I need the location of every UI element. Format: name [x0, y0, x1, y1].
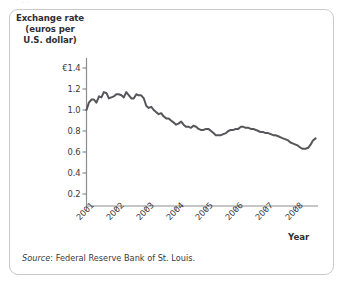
y-tick-label: 0.2 — [43, 189, 81, 199]
axis-tick-marks — [83, 68, 296, 211]
chart-svg — [0, 0, 344, 285]
y-tick-label: 0.8 — [43, 126, 81, 136]
source-label: Source — [22, 253, 50, 263]
source-text: Federal Reserve Bank of St. Louis. — [56, 253, 195, 263]
exchange-rate-line — [87, 92, 316, 149]
y-tick-label: 0.6 — [43, 147, 81, 157]
source-separator: : — [50, 253, 53, 263]
y-tick-label: 1.0 — [43, 105, 81, 115]
y-tick-label: 0.4 — [43, 168, 81, 178]
source-note: Source: Federal Reserve Bank of St. Loui… — [22, 253, 195, 263]
y-tick-label: 1.2 — [43, 84, 81, 94]
y-tick-label: €1.4 — [43, 63, 81, 73]
